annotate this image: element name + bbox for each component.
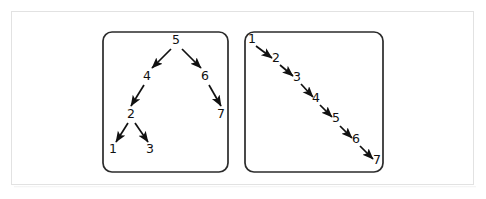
tree-node-1: 1 [248,31,256,46]
tree-node-2: 2 [127,106,135,121]
balanced-binary-tree-panel: 5462713 [103,32,228,172]
panel-border-left [103,32,228,172]
tree-node-5: 5 [172,32,180,47]
tree-node-3: 3 [146,141,154,156]
tree-node-4: 4 [312,90,320,105]
degenerate-linear-tree-panel: 1234567 [245,31,383,172]
figure-root: 5462713 1234567 [0,0,486,199]
tree-node-4: 4 [143,68,151,83]
diagram-canvas: 5462713 1234567 [0,0,486,199]
tree-node-6: 6 [352,131,360,146]
tree-node-5: 5 [332,110,340,125]
tree-node-2: 2 [272,50,280,65]
tree-node-1: 1 [109,141,117,156]
tree-node-6: 6 [201,68,209,83]
tree-node-7: 7 [217,106,225,121]
tree-node-7: 7 [373,152,381,167]
tree-node-3: 3 [293,69,301,84]
